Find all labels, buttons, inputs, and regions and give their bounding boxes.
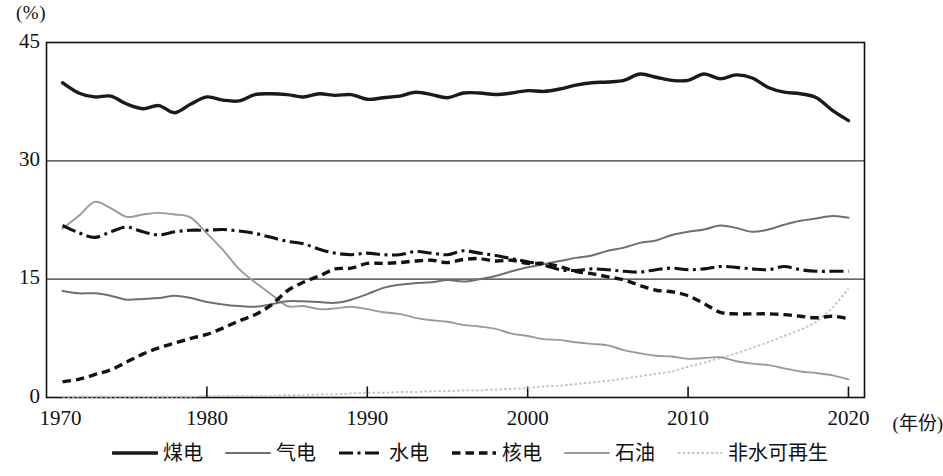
x-axis-tick-1990: 1990 bbox=[322, 406, 412, 431]
x-axis-tick-2020: 2020 bbox=[803, 406, 893, 431]
legend-item-煤电[interactable]: 煤电 bbox=[112, 443, 203, 463]
legend-swatch-气电-icon bbox=[225, 446, 271, 460]
series-line-石油 bbox=[63, 202, 849, 380]
legend-item-核电[interactable]: 核电 bbox=[451, 443, 542, 463]
y-axis-tick-45: 45 bbox=[0, 29, 40, 54]
data-series-layer bbox=[63, 74, 849, 397]
x-axis-unit-label: (年份) bbox=[892, 408, 943, 435]
legend-label-煤电: 煤电 bbox=[163, 443, 203, 463]
legend-item-气电[interactable]: 气电 bbox=[225, 443, 316, 463]
legend-swatch-水电-icon bbox=[338, 446, 384, 460]
plot-area bbox=[0, 0, 939, 440]
legend-label-石油: 石油 bbox=[615, 443, 655, 463]
y-axis-unit-label: (%) bbox=[16, 2, 46, 24]
legend-item-水电[interactable]: 水电 bbox=[338, 443, 429, 463]
x-axis-tick-2010: 2010 bbox=[643, 406, 733, 431]
legend-item-非水可再生[interactable]: 非水可再生 bbox=[677, 443, 828, 463]
legend-label-水电: 水电 bbox=[389, 443, 429, 463]
legend-swatch-石油-icon bbox=[564, 446, 610, 460]
legend-label-核电: 核电 bbox=[502, 443, 542, 463]
series-line-煤电 bbox=[63, 74, 849, 121]
legend-label-气电: 气电 bbox=[276, 443, 316, 463]
legend-item-石油[interactable]: 石油 bbox=[564, 443, 655, 463]
series-line-核电 bbox=[63, 259, 849, 382]
legend-swatch-核电-icon bbox=[451, 446, 497, 460]
chart-legend: 煤电气电水电核电石油非水可再生 bbox=[0, 443, 939, 463]
y-axis-tick-30: 30 bbox=[0, 147, 40, 172]
y-axis-tick-15: 15 bbox=[0, 265, 40, 290]
x-axis-tick-1970: 1970 bbox=[16, 406, 106, 431]
x-axis-tick-2000: 2000 bbox=[483, 406, 573, 431]
series-line-水电 bbox=[63, 226, 849, 273]
legend-swatch-非水可再生-icon bbox=[677, 446, 723, 460]
legend-swatch-煤电-icon bbox=[112, 446, 158, 460]
legend-label-非水可再生: 非水可再生 bbox=[728, 443, 828, 463]
x-axis-tick-1980: 1980 bbox=[162, 406, 252, 431]
